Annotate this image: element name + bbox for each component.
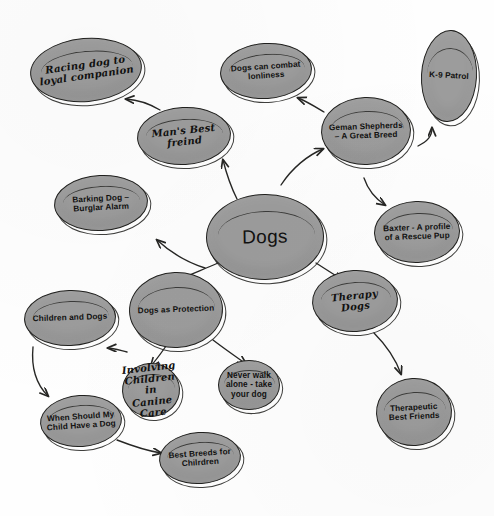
node-baxter-rescue-pup[interactable]: Baxter - A profile of a Rescue Pup bbox=[373, 200, 461, 265]
edge-therapy-to-therapeutic bbox=[374, 333, 401, 374]
node-dogs-combat-loneliness[interactable]: Dogs can combat lonliness bbox=[218, 40, 314, 102]
node-dogs-as-protection[interactable]: Dogs as Protection bbox=[128, 270, 225, 349]
node-when-should-my-child[interactable]: When Should My Child Have a Dog bbox=[38, 392, 123, 450]
node-label: Baxter - A profile of a Rescue Pup bbox=[374, 221, 461, 242]
node-german-shepherds[interactable]: Geman Shepherds – A Great Breed bbox=[320, 95, 412, 166]
node-label: Involving Children in Canine Care bbox=[116, 359, 185, 421]
node-mans-best-friend[interactable]: Man's Best freind bbox=[136, 105, 233, 168]
edge-protection-to-children-and-dogs bbox=[108, 348, 127, 352]
node-barking-dog[interactable]: Barking Dog – Burglar Alarm bbox=[53, 173, 150, 234]
edge-dogs-to-german-shepherds bbox=[281, 149, 323, 185]
node-racing-dog[interactable]: Racing dog to loyal companion bbox=[27, 33, 144, 107]
node-label: Dogs bbox=[237, 226, 293, 248]
node-involving-children[interactable]: Involving Children in Canine Care bbox=[121, 362, 182, 419]
node-therapy-dogs[interactable]: Therapy Dogs bbox=[310, 268, 399, 334]
edge-german-shepherds-to-k9 bbox=[418, 128, 432, 146]
node-k9-patrol[interactable]: K-9 Patrol bbox=[419, 29, 480, 124]
node-dogs[interactable]: Dogs bbox=[205, 193, 324, 281]
node-children-and-dogs[interactable]: Children and Dogs bbox=[23, 288, 117, 347]
node-label: Geman Shepherds – A Great Breed bbox=[321, 120, 412, 142]
node-best-breeds[interactable]: Best Breeds for Chilrdren bbox=[157, 429, 242, 487]
mindmap-canvas: DogsRacing dog to loyal companionMan's B… bbox=[0, 0, 494, 516]
edge-dogs-to-barking-dog bbox=[157, 240, 205, 268]
node-therapeutic-best-friends[interactable]: Therapeutic Best Friends bbox=[374, 376, 453, 448]
edge-children-and-dogs-to-when-should bbox=[33, 347, 48, 396]
edge-dogs-to-mans-best-friend bbox=[223, 160, 237, 199]
edge-german-shepherds-to-baxter bbox=[364, 178, 385, 205]
node-label: Never walk alone - take your dog bbox=[218, 371, 280, 399]
node-never-walk-alone[interactable]: Never walk alone - take your dog bbox=[218, 360, 280, 410]
